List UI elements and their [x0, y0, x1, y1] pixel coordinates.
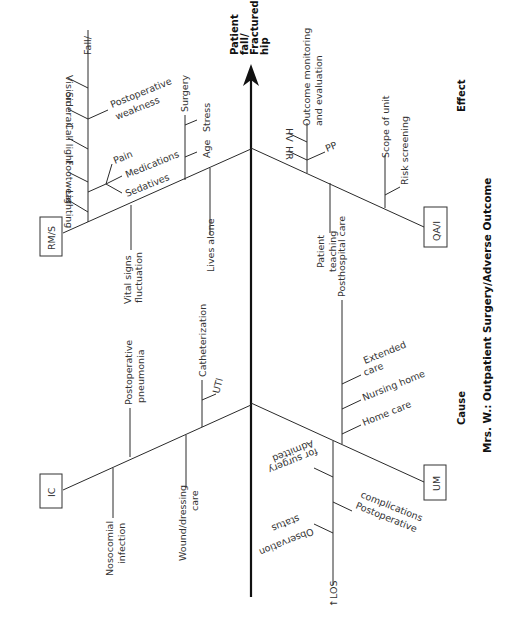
diagram-title: Mrs. W.: Outpatient Surgery/Adverse Outc…: [481, 178, 493, 453]
category-rms: RM/S Fall/ Vision Siderail Call light Fo…: [40, 30, 251, 304]
svg-text:IC: IC: [46, 487, 57, 497]
svg-text:pneumonia: pneumonia: [135, 350, 146, 403]
svg-text:Age: Age: [201, 139, 212, 158]
svg-text:UM: UM: [431, 476, 442, 491]
svg-text:Call light: Call light: [64, 123, 75, 165]
category-qai: QA/I Outcome monitoring and evaluation H…: [251, 28, 447, 272]
svg-text:status: status: [270, 513, 301, 534]
svg-text:Surgery: Surgery: [179, 74, 190, 112]
svg-text:Extended: Extended: [362, 339, 408, 366]
svg-text:Postoperative: Postoperative: [123, 340, 134, 405]
fishbone-diagram: Patient fall/ Fractured hip Effect Cause…: [0, 0, 510, 617]
svg-text:Scope of unit: Scope of unit: [380, 95, 391, 158]
svg-text:Patient: Patient: [315, 235, 326, 268]
svg-text:HR: HR: [284, 146, 295, 160]
svg-text:↑LOS: ↑LOS: [328, 581, 339, 607]
svg-text:Medications: Medications: [124, 148, 181, 180]
svg-text:care: care: [189, 490, 200, 511]
svg-text:HV: HV: [284, 128, 295, 142]
category-um: UM Posthospital care Extended care Nursi…: [251, 216, 446, 607]
effect-problem-label: Patient fall/ Fractured hip: [229, 0, 270, 55]
category-ic: IC Nosocomial infection Postoperative pn…: [40, 304, 251, 576]
cause-label: Cause: [456, 391, 467, 425]
svg-text:Nosocomial: Nosocomial: [104, 521, 115, 576]
effect-label: Effect: [456, 79, 467, 112]
svg-text:hip: hip: [259, 37, 270, 55]
svg-text:Outcome monitoring: Outcome monitoring: [301, 28, 312, 126]
svg-text:Risk screening: Risk screening: [399, 116, 410, 185]
svg-text:Lighting: Lighting: [64, 190, 75, 228]
svg-text:Fall/: Fall/: [82, 35, 93, 55]
svg-text:RM/S: RM/S: [46, 226, 57, 250]
svg-text:Vital signs: Vital signs: [122, 255, 133, 304]
svg-text:and evaluation: and evaluation: [313, 55, 324, 126]
svg-text:fluctuation: fluctuation: [133, 252, 144, 303]
svg-text:Posthospital care: Posthospital care: [336, 216, 347, 297]
svg-text:PP: PP: [324, 139, 339, 154]
svg-text:Observation: Observation: [258, 526, 316, 558]
svg-text:Wound/dressing: Wound/dressing: [177, 485, 188, 561]
svg-text:Pain: Pain: [112, 148, 134, 166]
svg-text:Catheterization: Catheterization: [197, 304, 208, 377]
svg-text:Lives alone: Lives alone: [205, 218, 216, 272]
svg-text:QA/I: QA/I: [431, 221, 442, 241]
svg-text:UTI: UTI: [210, 377, 225, 395]
svg-text:Stress: Stress: [201, 103, 212, 132]
svg-text:infection: infection: [116, 523, 127, 564]
svg-text:Home care: Home care: [361, 398, 413, 428]
